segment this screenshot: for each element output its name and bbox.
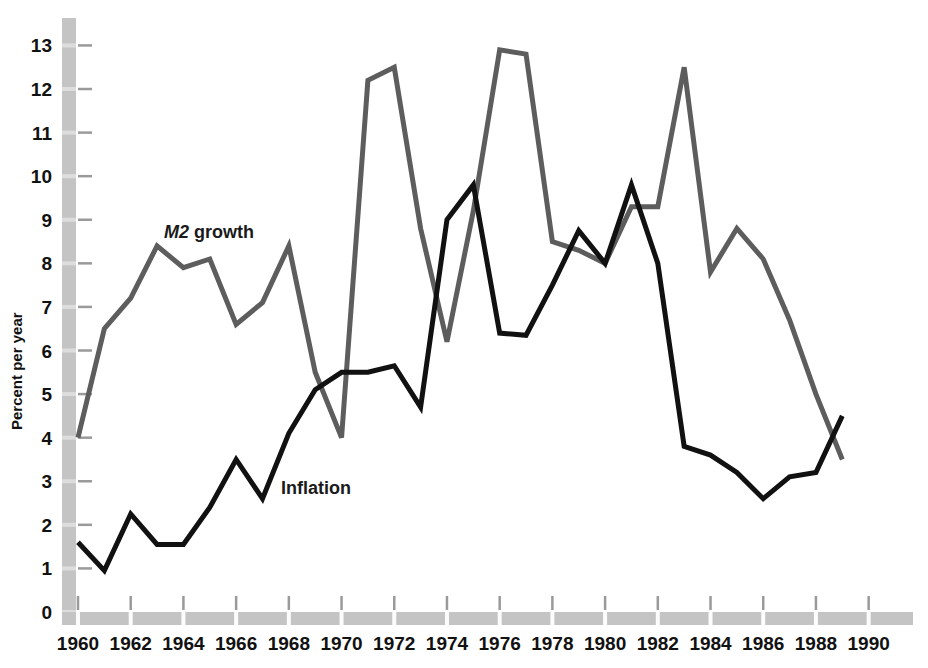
y-axis-band-notch (62, 349, 76, 353)
x-tick-label: 1988 (795, 633, 837, 654)
y-tick-label: 6 (41, 341, 52, 362)
x-tick-label: 1986 (742, 633, 784, 654)
y-tick-label: 5 (41, 384, 52, 405)
x-axis-band-gap (709, 612, 713, 625)
x-axis-band-gap (761, 612, 765, 625)
y-axis-band-notch (62, 131, 76, 135)
x-axis-band-gap (656, 612, 660, 625)
series-label-emphasis: M2 (164, 222, 189, 242)
inflation-label: Inflation (281, 478, 351, 498)
y-axis-band-notch (62, 174, 76, 178)
y-axis-band-notch (62, 392, 76, 396)
x-tick-label: 1990 (848, 633, 890, 654)
x-axis-band-gap (76, 612, 80, 625)
x-axis-band-gap (498, 612, 502, 625)
x-tick-label: 1976 (479, 633, 521, 654)
y-axis-band-notch (62, 261, 76, 265)
x-axis-band-gap (287, 612, 291, 625)
y-axis-title: Percent per year (8, 312, 25, 430)
x-tick-label: 1972 (373, 633, 415, 654)
y-axis-band-notch (62, 566, 76, 570)
y-tick-label: 12 (31, 79, 52, 100)
x-axis-band-gap (181, 612, 185, 625)
y-tick-label: 2 (41, 515, 52, 536)
x-axis-band-gap (445, 612, 449, 625)
x-axis-band-gap (234, 612, 238, 625)
x-tick-label: 1968 (268, 633, 310, 654)
m2-growth-label: M2 growth (164, 222, 254, 242)
x-tick-label: 1970 (320, 633, 362, 654)
x-axis-band-gap (867, 612, 871, 625)
y-axis-band-notch (62, 87, 76, 91)
y-axis-band-notch (62, 305, 76, 309)
x-axis-band-gap (392, 612, 396, 625)
y-tick-label: 4 (41, 428, 52, 449)
x-axis-band-rect (62, 612, 913, 625)
x-axis-band-gap (814, 612, 818, 625)
y-tick-label: 10 (31, 166, 52, 187)
x-axis-band-gap (603, 612, 607, 625)
x-tick-label: 1964 (162, 633, 205, 654)
x-tick-label: 1960 (57, 633, 99, 654)
x-tick-label: 1962 (110, 633, 152, 654)
y-tick-label: 7 (41, 297, 52, 318)
series-label-rest: growth (189, 222, 254, 242)
y-tick-label: 0 (41, 602, 52, 623)
x-tick-label: 1978 (531, 633, 573, 654)
y-axis-band (62, 18, 76, 616)
x-axis-band-gap (129, 612, 133, 625)
y-axis-band-notch (62, 479, 76, 483)
y-tick-label: 11 (32, 123, 53, 144)
y-tick-label: 3 (41, 471, 52, 492)
y-tick-label: 1 (41, 558, 52, 579)
y-tick-label: 13 (31, 35, 52, 56)
y-tick-label: 9 (41, 210, 52, 231)
y-axis-band-notch (62, 43, 76, 47)
x-axis-band-gap (550, 612, 554, 625)
y-axis-band-notch (62, 218, 76, 222)
x-tick-label: 1982 (637, 633, 679, 654)
x-tick-label: 1966 (215, 633, 257, 654)
y-axis-band-notch (62, 436, 76, 440)
money-growth-inflation-line-chart: Percent per year 012345678910111213 1960… (0, 0, 928, 668)
y-tick-label: 8 (41, 253, 52, 274)
x-tick-label: 1980 (584, 633, 626, 654)
y-axis-band-notch (62, 523, 76, 527)
x-axis-band-gap (340, 612, 344, 625)
chart-background (0, 0, 928, 668)
x-tick-label: 1984 (689, 633, 732, 654)
x-tick-label: 1974 (426, 633, 469, 654)
chart-container: Percent per year 012345678910111213 1960… (0, 0, 928, 668)
